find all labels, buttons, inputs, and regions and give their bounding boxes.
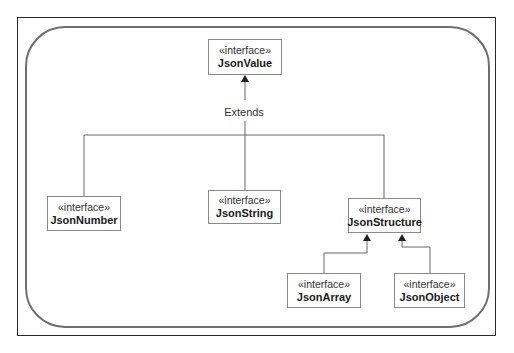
diagram-canvas: Extends «interface» JsonValue «interface…	[0, 0, 514, 353]
stereotype-label: «interface»	[219, 44, 271, 57]
node-json-object[interactable]: «interface» JsonObject	[394, 273, 465, 308]
stereotype-label: «interface»	[404, 278, 456, 291]
node-json-number[interactable]: «interface» JsonNumber	[47, 196, 121, 231]
node-json-string[interactable]: «interface» JsonString	[208, 190, 281, 224]
stereotype-label: «interface»	[298, 278, 350, 291]
interface-name: JsonValue	[218, 57, 272, 70]
arrowhead-icon	[398, 234, 406, 241]
stereotype-label: «interface»	[359, 203, 411, 216]
node-json-structure[interactable]: «interface» JsonStructure	[348, 198, 421, 233]
arrowhead-icon	[241, 75, 249, 82]
stereotype-label: «interface»	[58, 201, 110, 214]
arrowhead-icon	[363, 234, 371, 241]
interface-name: JsonString	[216, 207, 273, 220]
interface-name: JsonNumber	[50, 214, 117, 227]
interface-name: JsonObject	[400, 291, 460, 304]
node-json-array[interactable]: «interface» JsonArray	[287, 273, 361, 308]
interface-name: JsonStructure	[347, 216, 422, 229]
interface-name: JsonArray	[297, 291, 351, 304]
stereotype-label: «interface»	[219, 194, 271, 207]
node-json-value[interactable]: «interface» JsonValue	[208, 39, 282, 75]
extends-label: Extends	[224, 106, 264, 118]
